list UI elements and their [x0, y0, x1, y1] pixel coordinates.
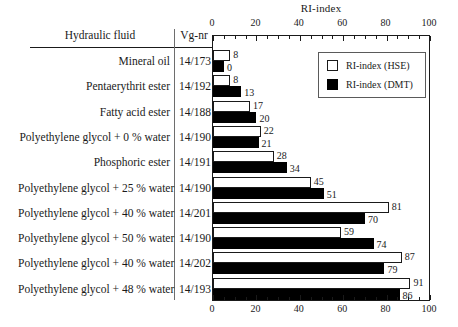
bar-dmt	[213, 86, 241, 97]
bottom-axis-line	[212, 300, 430, 301]
axis-minor-tick	[322, 36, 323, 39]
row-value-vg-nr: 14/190	[178, 131, 212, 143]
axis-major-tick	[430, 295, 431, 300]
bar-hse	[213, 202, 389, 213]
axis-tick-label: 40	[294, 303, 304, 314]
row-label-hydraulic-fluid: Pentaerythrit ester	[18, 80, 170, 92]
bar-value-hse: 8	[233, 49, 238, 60]
row-value-vg-nr: 14/190	[178, 232, 212, 244]
bar-value-dmt: 21	[262, 138, 272, 149]
bar-dmt	[213, 112, 256, 123]
bar-value-dmt: 79	[387, 264, 397, 275]
bar-value-dmt: 13	[244, 87, 254, 98]
bar-value-dmt: 74	[377, 239, 387, 250]
axis-major-tick	[300, 36, 301, 41]
column-header-vg-nr: Vg-nr	[176, 29, 212, 41]
bar-hse	[213, 278, 410, 289]
bar-value-dmt: 70	[368, 214, 378, 225]
axis-tick-label: 80	[381, 303, 391, 314]
axis-tick-label: 40	[294, 17, 304, 28]
table-column-divider	[174, 29, 175, 300]
row-label-hydraulic-fluid: Fatty acid ester	[18, 106, 170, 118]
row-value-vg-nr: 14/191	[178, 156, 212, 168]
bar-hse	[213, 126, 261, 137]
bar-value-hse: 91	[413, 277, 423, 288]
top-axis-tick-labels: 020406080100	[212, 17, 430, 30]
bar-value-dmt: 34	[290, 163, 300, 174]
axis-tick-label: 60	[337, 303, 347, 314]
axis-minor-tick	[332, 36, 333, 39]
row-value-vg-nr: 14/202	[178, 257, 212, 269]
bar-value-dmt: 20	[259, 113, 269, 124]
bar-value-dmt: 51	[327, 189, 337, 200]
bar-value-hse: 87	[405, 251, 415, 262]
row-value-vg-nr: 14/173	[178, 55, 212, 67]
axis-major-tick	[213, 36, 214, 41]
axis-minor-tick	[267, 36, 268, 39]
legend-label-hse: RI-index (HSE)	[346, 59, 410, 72]
row-value-vg-nr: 14/201	[178, 207, 212, 219]
bar-dmt	[213, 238, 374, 249]
axis-tick-label: 100	[422, 17, 437, 28]
row-label-hydraulic-fluid: Polyethylene glycol + 50 % water	[18, 232, 170, 244]
bar-value-hse: 45	[314, 176, 324, 187]
axis-minor-tick	[278, 36, 279, 39]
axis-minor-tick	[397, 36, 398, 39]
axis-major-tick	[343, 36, 344, 41]
axis-minor-tick	[365, 36, 366, 39]
bottom-axis-tick-labels: 020406080100	[212, 303, 430, 316]
column-header-hydraulic-fluid: Hydraulic fluid	[30, 29, 170, 41]
bar-dmt	[213, 162, 287, 173]
bar-dmt	[213, 137, 259, 148]
row-label-hydraulic-fluid: Mineral oil	[18, 55, 170, 67]
bar-dmt	[213, 188, 324, 199]
bar-dmt	[213, 263, 384, 274]
axis-tick-label: 100	[422, 303, 437, 314]
bar-value-hse: 22	[264, 125, 274, 136]
legend-label-dmt: RI-index (DMT)	[346, 78, 413, 91]
row-value-vg-nr: 14/188	[178, 106, 212, 118]
bar-hse	[213, 177, 311, 188]
legend-swatch-hse-icon	[327, 60, 338, 71]
bar-value-hse: 81	[392, 201, 402, 212]
row-label-hydraulic-fluid: Phosphoric ester	[18, 156, 170, 168]
bar-dmt	[213, 61, 224, 72]
axis-minor-tick	[311, 36, 312, 39]
axis-major-tick	[387, 36, 388, 41]
axis-major-tick	[430, 36, 431, 41]
bar-value-hse: 28	[277, 150, 287, 161]
ri-index-bar-chart-figure: RI-index 020406080100 Hydraulic fluid Vg…	[0, 0, 458, 327]
bar-hse	[213, 151, 274, 162]
axis-minor-tick	[289, 36, 290, 39]
table-header: Hydraulic fluid Vg-nr	[30, 29, 212, 49]
row-label-hydraulic-fluid: Polyethylene glycol + 0 % water	[18, 131, 170, 143]
bar-value-hse: 59	[344, 226, 354, 237]
axis-minor-tick	[224, 36, 225, 39]
bar-dmt	[213, 213, 365, 224]
row-value-vg-nr: 14/190	[178, 182, 212, 194]
row-label-hydraulic-fluid: Polyethylene glycol + 48 % water	[18, 283, 170, 295]
axis-major-tick	[256, 36, 257, 41]
axis-minor-tick	[376, 36, 377, 39]
axis-tick-label: 0	[210, 17, 215, 28]
bar-value-hse: 8	[233, 74, 238, 85]
row-label-hydraulic-fluid: Polyethylene glycol + 25 % water	[18, 182, 170, 194]
axis-minor-tick	[408, 36, 409, 39]
axis-tick-label: 80	[381, 17, 391, 28]
bar-value-dmt: 0	[227, 62, 232, 73]
row-label-hydraulic-fluid: Polyethylene glycol + 40 % water	[18, 257, 170, 269]
row-value-vg-nr: 14/193	[178, 283, 212, 295]
table-header-rule	[30, 47, 212, 48]
axis-minor-tick	[419, 36, 420, 39]
legend-swatch-dmt-icon	[327, 79, 338, 90]
plot-right-border	[429, 35, 430, 301]
bar-hse	[213, 252, 402, 263]
bar-hse	[213, 75, 230, 86]
chart-legend: RI-index (HSE) RI-index (DMT)	[318, 52, 426, 98]
bar-dmt	[213, 289, 400, 300]
axis-tick-label: 20	[250, 303, 260, 314]
row-value-vg-nr: 14/192	[178, 80, 212, 92]
row-label-hydraulic-fluid: Polyethylene glycol + 40 % water	[18, 207, 170, 219]
axis-minor-tick	[354, 36, 355, 39]
top-axis-line	[212, 35, 430, 36]
